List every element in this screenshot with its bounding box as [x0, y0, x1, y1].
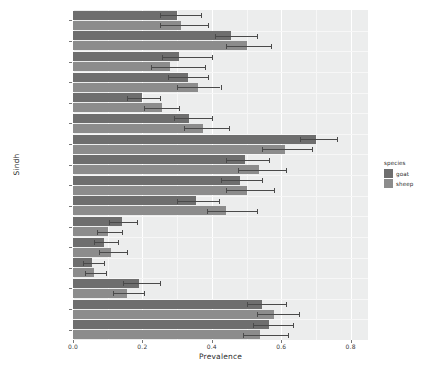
error-bar-cap-low: [99, 250, 100, 255]
error-bar-cap-low: [83, 261, 84, 266]
error-bar-cap-high: [262, 178, 263, 183]
legend-label-sheep: sheep: [396, 181, 413, 187]
error-bar: [97, 232, 121, 233]
bar-goat-matiari: [73, 135, 316, 144]
x-tick-label: 0.4: [207, 343, 217, 350]
error-bar-cap-high: [271, 44, 272, 49]
x-tick-label: 0.0: [68, 343, 78, 350]
error-bar: [168, 77, 208, 78]
y-tick-mark: [69, 227, 72, 228]
error-bar: [253, 325, 293, 326]
y-tick-mark: [69, 330, 72, 331]
error-bar-cap-high: [212, 116, 213, 121]
error-bar-cap-high: [137, 220, 138, 225]
error-bar-cap-high: [286, 168, 287, 173]
error-bar-cap-low: [184, 126, 185, 131]
x-axis-title: Prevalence: [73, 352, 368, 361]
bar-goat-larkana: [73, 176, 240, 185]
error-bar: [151, 67, 205, 68]
error-bar-cap-high: [118, 240, 119, 245]
error-bar-cap-low: [257, 312, 258, 317]
error-bar: [262, 149, 312, 150]
error-bar-cap-low: [123, 281, 124, 286]
error-bar: [247, 304, 287, 305]
x-tick-mark: [212, 340, 213, 343]
x-tick-label: 0.8: [346, 343, 356, 350]
error-bar-cap-low: [160, 13, 161, 18]
error-bar-cap-low: [177, 199, 178, 204]
error-bar-cap-high: [212, 55, 213, 60]
error-bar-cap-high: [269, 158, 270, 163]
error-bar: [226, 160, 269, 161]
error-bar-cap-low: [94, 240, 95, 245]
y-tick-mark: [69, 268, 72, 269]
legend-label-goat: goat: [396, 171, 409, 177]
error-bar: [177, 201, 219, 202]
x-tick-mark: [73, 340, 74, 343]
error-bar-cap-high: [257, 34, 258, 39]
error-bar: [113, 293, 144, 294]
error-bar-cap-low: [162, 55, 163, 60]
legend-title: species: [384, 160, 428, 166]
y-tick-mark: [69, 165, 72, 166]
error-bar: [226, 190, 275, 191]
error-bar: [238, 170, 287, 171]
bar-goat-mirpur-khas: [73, 155, 245, 164]
error-bar-cap-low: [168, 75, 169, 80]
error-bar: [207, 211, 257, 212]
error-bar: [257, 314, 299, 315]
bar-sheep-matiari: [73, 145, 285, 154]
error-bar-cap-high: [337, 137, 338, 142]
error-bar-cap-high: [208, 75, 209, 80]
error-bar-cap-high: [274, 188, 275, 193]
y-tick-mark: [69, 62, 72, 63]
error-bar: [85, 273, 106, 274]
bar-sheep-badin: [73, 330, 260, 339]
bar-goat-nausheroferoz: [73, 114, 189, 123]
chart-root: Sindh ThattaSukkurShikarpurSangharNawabs…: [0, 0, 428, 375]
error-bar: [174, 118, 212, 119]
legend-swatch-sheep: [384, 179, 393, 188]
y-tick-mark: [69, 309, 72, 310]
error-bar-cap-high: [127, 250, 128, 255]
legend-swatch-goat: [384, 169, 393, 178]
legend-item-goat: goat: [384, 169, 428, 178]
error-bar: [177, 87, 220, 88]
error-bar-cap-low: [113, 291, 114, 296]
error-bar: [243, 335, 288, 336]
y-tick-mark: [69, 41, 72, 42]
error-bar: [160, 25, 209, 26]
error-bar-cap-low: [226, 158, 227, 163]
error-bar: [160, 15, 202, 16]
error-bar: [109, 222, 137, 223]
error-bar-cap-low: [243, 333, 244, 338]
y-tick-mark: [69, 185, 72, 186]
error-bar-cap-high: [106, 271, 107, 276]
error-bar-cap-low: [253, 323, 254, 328]
error-bar-cap-low: [262, 147, 263, 152]
legend-item-sheep: sheep: [384, 179, 428, 188]
error-bar-cap-high: [312, 147, 313, 152]
error-bar: [123, 283, 159, 284]
bar-sheep-mirpur-khas: [73, 165, 259, 174]
error-bar-cap-high: [122, 230, 123, 235]
error-bar-cap-low: [226, 188, 227, 193]
x-tick-label: 0.2: [137, 343, 147, 350]
error-bar-cap-low: [207, 209, 208, 214]
error-bar-cap-low: [97, 230, 98, 235]
error-bar-cap-low: [300, 137, 301, 142]
error-bar-cap-low: [226, 44, 227, 49]
error-bar-cap-high: [257, 209, 258, 214]
error-bar: [127, 98, 160, 99]
gridline-row: [73, 258, 368, 259]
y-tick-mark: [69, 20, 72, 21]
error-bar-cap-high: [179, 106, 180, 111]
error-bar-cap-low: [151, 65, 152, 70]
y-tick-mark: [69, 144, 72, 145]
error-bar: [144, 108, 179, 109]
y-tick-mark: [69, 123, 72, 124]
error-bar-cap-high: [229, 126, 230, 131]
bar-sheep-sukkur: [73, 41, 247, 50]
error-bar: [215, 36, 257, 37]
error-bar-cap-high: [208, 23, 209, 28]
